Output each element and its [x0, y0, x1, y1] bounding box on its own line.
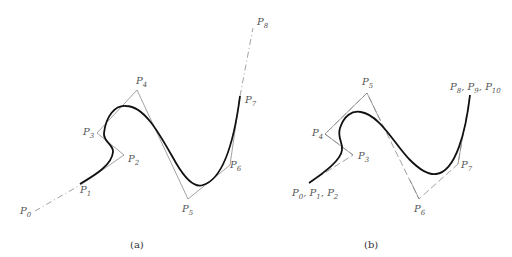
figure-canvas	[0, 0, 512, 257]
label-p3: P3	[83, 127, 94, 140]
label-p0: P0	[20, 206, 31, 219]
label-p0-p1-p2: P0, P1, P2	[292, 188, 338, 201]
label-p8: P8	[257, 17, 268, 30]
label-p1: P1	[80, 185, 91, 198]
label-p2: P2	[128, 154, 139, 167]
panel-b-bspline-curve	[309, 95, 470, 183]
panel-a-bspline-curve	[80, 96, 240, 186]
label-p7: P7	[461, 160, 472, 173]
panel-b-control-polygon	[309, 93, 470, 199]
label-p5: P5	[182, 204, 193, 217]
panel-a-caption: (a)	[130, 240, 144, 250]
label-p5: P5	[362, 77, 373, 90]
label-p6: P6	[414, 204, 425, 217]
label-p6: P6	[230, 160, 241, 173]
panel-b-caption: (b)	[364, 240, 378, 250]
panel-a-control-polygon	[35, 28, 253, 211]
label-p8-p9-p10: P8, P9, P10	[450, 82, 501, 95]
label-p4: P4	[312, 128, 323, 141]
label-p4: P4	[136, 76, 147, 89]
bspline-figure: P0 P1 P2 P3 P4 P5 P6 P7 P8 (a) P0, P1, P…	[0, 0, 512, 257]
label-p7: P7	[245, 95, 256, 108]
label-p3: P3	[358, 151, 369, 164]
